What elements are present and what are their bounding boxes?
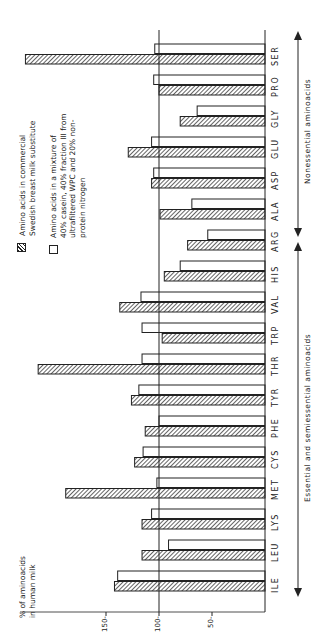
tick-label-50: 50- xyxy=(207,617,215,628)
bar-open-ile xyxy=(118,571,265,581)
arrow-up-icon xyxy=(294,242,302,251)
bar-hatched-phe xyxy=(145,427,265,437)
category-label-ala: ALA xyxy=(271,200,280,220)
bar-hatched-arg xyxy=(188,241,265,251)
y-axis-label-line: % of aminoacids xyxy=(18,556,28,618)
category-label-thr: THR xyxy=(271,355,280,376)
bar-hatched-ser xyxy=(25,55,265,65)
bar-hatched-pro xyxy=(159,86,265,96)
tick-label-100: 100- xyxy=(154,616,162,632)
bar-open-met xyxy=(157,478,265,488)
bar-hatched-ala xyxy=(160,210,265,220)
bar-open-cys xyxy=(143,447,265,457)
category-label-val: VAL xyxy=(271,294,280,313)
bar-hatched-his xyxy=(164,272,265,282)
bar-open-phe xyxy=(159,416,265,426)
bar-hatched-ile xyxy=(114,582,265,592)
category-label-trp: TRP xyxy=(271,325,280,345)
bar-open-pro xyxy=(154,75,265,85)
bar-open-glu xyxy=(152,137,265,147)
category-label-his: HIS xyxy=(271,265,280,283)
category-label-glu: GLU xyxy=(271,138,280,159)
bar-open-thr xyxy=(142,354,265,364)
legend-swatch-hatched xyxy=(17,243,26,252)
category-label-tyr: TYR xyxy=(271,387,280,407)
bar-hatched-lys xyxy=(142,520,265,530)
bar-hatched-glu xyxy=(128,148,265,158)
category-label-arg: ARG xyxy=(271,230,280,252)
bar-open-asp xyxy=(154,168,265,178)
bar-open-lys xyxy=(152,509,265,519)
legend-text-line: 40% casein, 40% fraction III from xyxy=(59,113,69,238)
legend-text-line: ultrafiltered WPC and 20% non- xyxy=(68,113,78,238)
bar-hatched-met xyxy=(66,489,265,499)
bar-open-leu xyxy=(169,540,265,550)
category-label-pro: PRO xyxy=(271,75,280,96)
arrow-down-icon xyxy=(294,588,302,597)
group-label-nonessential: Nonessential aminoacids xyxy=(303,79,312,184)
category-label-phe: PHE xyxy=(271,417,280,437)
y-axis-label-line: in human milk xyxy=(28,556,38,618)
bar-open-ala xyxy=(192,199,265,209)
legend-swatch-open xyxy=(49,245,58,254)
arrow-down-icon xyxy=(294,228,302,237)
bar-open-val xyxy=(141,292,265,302)
legend-item-commercial: Amino acids in commercial Swedish breast… xyxy=(18,121,37,236)
bar-open-arg xyxy=(208,230,265,240)
bar-open-trp xyxy=(142,323,265,333)
group-label-essential: Essential and semiessential aminoacids xyxy=(303,334,312,502)
category-label-ile: ILE xyxy=(271,576,280,592)
category-label-leu: LEU xyxy=(271,542,280,562)
amino-acid-bar-chart xyxy=(0,0,332,632)
bar-open-tyr xyxy=(139,385,265,395)
bar-open-his xyxy=(180,261,265,271)
arrow-up-icon xyxy=(294,31,302,40)
tick-label-150: 150- xyxy=(101,616,109,632)
category-label-gly: GLY xyxy=(271,109,280,128)
bar-hatched-val xyxy=(120,303,265,313)
category-label-lys: LYS xyxy=(271,513,280,531)
bar-hatched-tyr xyxy=(131,396,265,406)
bar-hatched-asp xyxy=(152,179,265,189)
category-label-cys: CYS xyxy=(271,449,280,469)
legend-text-line: protein nitrogen xyxy=(78,113,88,238)
y-axis-label: % of aminoacids in human milk xyxy=(18,556,37,618)
bar-open-ser xyxy=(155,44,265,54)
bar-hatched-gly xyxy=(180,117,265,127)
bar-hatched-cys xyxy=(135,458,265,468)
legend-text-line: Amino acids in a mixture of xyxy=(49,113,59,238)
category-label-met: MET xyxy=(271,478,280,499)
bar-hatched-thr xyxy=(38,365,265,375)
bar-hatched-leu xyxy=(142,551,265,561)
bar-open-gly xyxy=(197,106,265,116)
category-label-ser: SER xyxy=(271,45,280,65)
bar-hatched-trp xyxy=(162,334,265,344)
legend-text-line: Swedish breast milk substitute xyxy=(28,121,38,236)
legend-text-line: Amino acids in commercial xyxy=(18,121,28,236)
legend-item-mixture: Amino acids in a mixture of 40% casein, … xyxy=(49,113,87,238)
category-label-asp: ASP xyxy=(271,170,280,190)
